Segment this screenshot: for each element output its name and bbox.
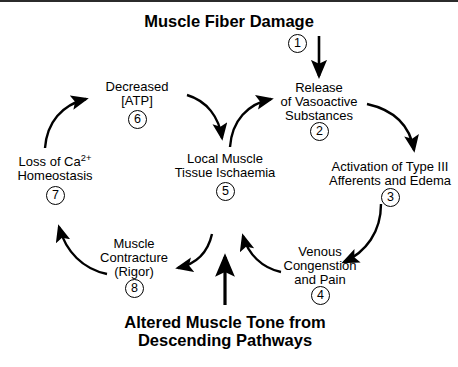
step-number-5: 5 [216, 182, 235, 201]
activation-line-1: Activation of Type III [329, 160, 451, 174]
arrow-ischaemia-to-release [230, 99, 271, 147]
calcium-line-2: Homeostasis [17, 169, 92, 183]
arrow-venous-to-ischaemia [243, 236, 281, 272]
node-muscle-fiber-damage: Muscle Fiber Damage [144, 12, 314, 30]
ischaemia-line-2: Tissue Ischaemia [175, 166, 276, 180]
atp-line-1: Decreased [106, 80, 169, 94]
calcium-line-1-text: Loss of Ca [19, 154, 81, 169]
calcium-superscript: 2+ [81, 153, 92, 163]
step-number-2: 2 [310, 122, 329, 141]
node-loss-of-calcium-homeostasis: Loss of Ca2+ Homeostasis [17, 155, 92, 183]
arrow-calcium-to-atp [45, 99, 86, 148]
node-release-vasoactive-substances: Release of Vasoactive Substances [280, 81, 357, 123]
contracture-line-3: (Rigor) [100, 265, 168, 279]
venous-line-2: Congenstion [284, 259, 357, 273]
step-number-8: 8 [125, 279, 144, 298]
caption-line-1: Altered Muscle Tone from [124, 313, 325, 331]
node-local-muscle-tissue-ischaemia: Local Muscle Tissue Ischaemia [175, 152, 276, 180]
node-muscle-contracture-rigor: Muscle Contracture (Rigor) [100, 237, 168, 279]
step-number-6: 6 [128, 110, 147, 129]
release-line-1: Release [280, 81, 357, 95]
arrow-ischaemia-to-contracture [178, 234, 212, 268]
contracture-line-2: Contracture [100, 251, 168, 265]
step-number-3: 3 [381, 188, 400, 207]
step-number-7: 7 [46, 186, 65, 205]
step-number-4: 4 [311, 286, 330, 305]
node-decreased-atp: Decreased [ATP] [106, 80, 169, 108]
arrow-release-to-activation [367, 104, 414, 150]
node-activation-type-iii-afferents: Activation of Type III Afferents and Ede… [329, 160, 451, 188]
activation-line-2: Afferents and Edema [329, 174, 451, 188]
arrow-atp-to-ischaemia [187, 95, 222, 138]
atp-line-2: [ATP] [106, 94, 169, 108]
venous-line-1: Venous [284, 245, 357, 259]
node-venous-congestion-pain: Venous Congenstion and Pain [284, 245, 357, 287]
step-number-1: 1 [288, 34, 307, 53]
caption-line-2: Descending Pathways [124, 331, 325, 349]
flow-diagram: Muscle Fiber Damage 1 Release of Vasoact… [0, 0, 458, 367]
ischaemia-line-1: Local Muscle [175, 152, 276, 166]
calcium-line-1: Loss of Ca2+ [17, 155, 92, 169]
muscle-fiber-damage-label: Muscle Fiber Damage [144, 12, 314, 30]
venous-line-3: and Pain [284, 273, 357, 287]
release-line-3: Substances [280, 109, 357, 123]
node-altered-muscle-tone: Altered Muscle Tone from Descending Path… [124, 313, 325, 349]
contracture-line-1: Muscle [100, 237, 168, 251]
release-line-2: of Vasoactive [280, 95, 357, 109]
